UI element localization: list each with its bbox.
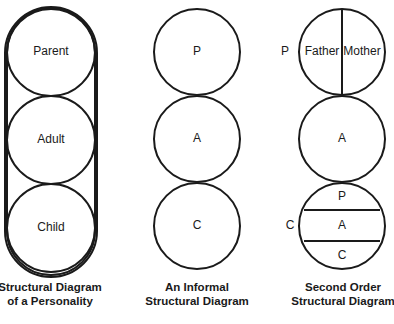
p-label: P bbox=[193, 44, 201, 58]
parent-label: Parent bbox=[33, 44, 69, 58]
caption-line-2: Structural Diagram bbox=[291, 295, 394, 307]
side-label-p: P bbox=[281, 44, 289, 58]
diagram-personality: Parent Adult Child Structural Diagram of… bbox=[0, 7, 102, 307]
father-label: Father bbox=[305, 44, 340, 58]
caption-line-2: Structural Diagram bbox=[145, 295, 249, 307]
a-label: A bbox=[193, 131, 201, 145]
caption-line-1: Structural Diagram bbox=[0, 281, 102, 293]
child-band-c: C bbox=[338, 248, 347, 262]
child-band-a: A bbox=[338, 218, 346, 232]
diagram-informal: P A C An Informal Structural Diagram bbox=[145, 9, 249, 307]
diagram-second-order: Father Mother P A P A C C Second Order S… bbox=[281, 9, 394, 307]
adult-label: Adult bbox=[37, 132, 65, 146]
structural-diagrams: Parent Adult Child Structural Diagram of… bbox=[0, 0, 394, 324]
child-band-p: P bbox=[338, 189, 346, 203]
caption-line-2: of a Personality bbox=[7, 295, 93, 307]
c-label: C bbox=[193, 218, 202, 232]
mother-label: Mother bbox=[343, 44, 380, 58]
adult-label: A bbox=[338, 131, 346, 145]
side-label-c: C bbox=[286, 218, 295, 232]
child-label: Child bbox=[37, 220, 64, 234]
caption-line-1: An Informal bbox=[165, 281, 229, 293]
caption-line-1: Second Order bbox=[305, 281, 382, 293]
